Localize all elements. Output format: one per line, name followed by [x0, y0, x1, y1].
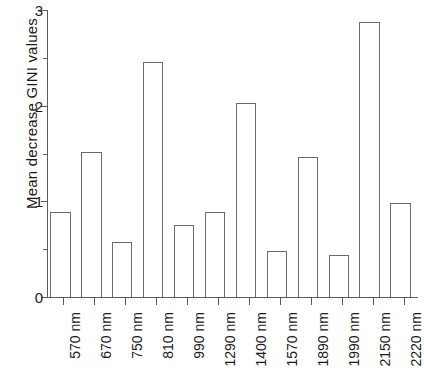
x-axis-tick-mark — [156, 298, 157, 305]
x-axis-tick-label: 1290 nm — [223, 312, 237, 366]
x-axis-tick-mark — [249, 298, 250, 305]
x-axis-tick-label: 810 nm — [161, 312, 175, 359]
x-axis-tick-label: 2150 nm — [378, 312, 392, 366]
x-axis-tick-label: 670 nm — [99, 312, 113, 359]
bar — [267, 251, 287, 297]
bar — [236, 103, 256, 297]
bar — [298, 157, 318, 297]
bar — [390, 203, 410, 297]
x-axis-tick-label: 1400 nm — [254, 312, 268, 366]
x-axis-tick-mark — [218, 298, 219, 305]
x-axis-tick-label: 2220 nm — [409, 312, 423, 366]
bar — [205, 212, 225, 297]
x-axis-tick-mark — [404, 298, 405, 305]
bar — [50, 212, 70, 297]
plot-area: 0123 570 nm670 nm750 nm810 nm990 nm1290 … — [47, 10, 418, 297]
x-axis-tick-mark — [342, 298, 343, 305]
bar — [143, 62, 163, 297]
y-axis-minor-tick-mark — [43, 249, 47, 250]
x-axis-tick-mark — [125, 298, 126, 305]
x-axis-tick-mark — [63, 298, 64, 305]
bar — [112, 242, 132, 297]
bar — [359, 22, 379, 297]
x-axis-tick-label: 1990 nm — [347, 312, 361, 366]
x-axis-line — [47, 297, 418, 298]
bar — [174, 225, 194, 297]
x-axis-tick-label: 990 nm — [192, 312, 206, 359]
y-axis-tick-label: 0 — [35, 290, 43, 305]
x-axis-tick-mark — [373, 298, 374, 305]
x-axis-tick-label: 1890 nm — [316, 312, 330, 366]
y-axis-tick-label: 3 — [35, 3, 43, 18]
y-axis-tick-label: 2 — [35, 98, 43, 113]
x-axis-tick-mark — [311, 298, 312, 305]
y-axis-line — [47, 10, 48, 298]
bar — [329, 255, 349, 297]
y-axis-minor-tick-mark — [43, 154, 47, 155]
y-axis-tick-label: 1 — [35, 194, 43, 209]
x-axis-tick-label: 570 nm — [68, 312, 82, 359]
x-axis-tick-mark — [94, 298, 95, 305]
x-axis-tick-mark — [280, 298, 281, 305]
bar — [81, 152, 101, 297]
x-axis-tick-mark — [187, 298, 188, 305]
x-axis-tick-label: 750 nm — [130, 312, 144, 359]
x-axis-tick-label: 1570 nm — [285, 312, 299, 366]
y-axis-minor-tick-mark — [43, 58, 47, 59]
